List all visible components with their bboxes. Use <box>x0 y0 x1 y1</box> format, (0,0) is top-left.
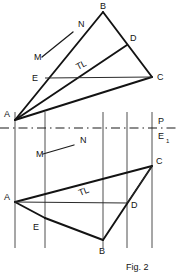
figure-container: ABCDE ABCDE NMNM TLTL P E 1 Fig. 2 <box>0 0 176 272</box>
drawing-background <box>0 0 176 272</box>
figure-caption: Fig. 2 <box>126 262 149 272</box>
top_view-vertex-label-D: D <box>130 33 137 43</box>
top_view-vertex-label-C: C <box>157 72 164 82</box>
top_view-vertex-label-B: B <box>100 1 106 11</box>
top_view-vertex-label-E: E <box>32 73 38 83</box>
bottom_view-vertex-label-C: C <box>156 156 163 166</box>
bottom_view-vertex-label-E: E <box>33 222 39 232</box>
bottom_view-vertex-label-B: B <box>99 246 105 256</box>
top_view-annotation-label-n: N <box>78 19 85 29</box>
bottom_view-vertex-label-D: D <box>131 200 138 210</box>
top_view-annotation-label-m: M <box>34 52 42 62</box>
descriptive-geometry-drawing: ABCDE ABCDE NMNM TLTL P E 1 Fig. 2 <box>0 0 176 272</box>
bottom_view-annotation-label-m: M <box>36 149 44 159</box>
bottom_view-annotation-label-n: N <box>80 135 87 145</box>
bottom_view-vertex-label-A: A <box>4 192 10 202</box>
top_view-vertex-label-A: A <box>4 109 10 119</box>
ref-label-p: P <box>158 116 164 126</box>
ref-label-e1: E <box>158 131 164 141</box>
